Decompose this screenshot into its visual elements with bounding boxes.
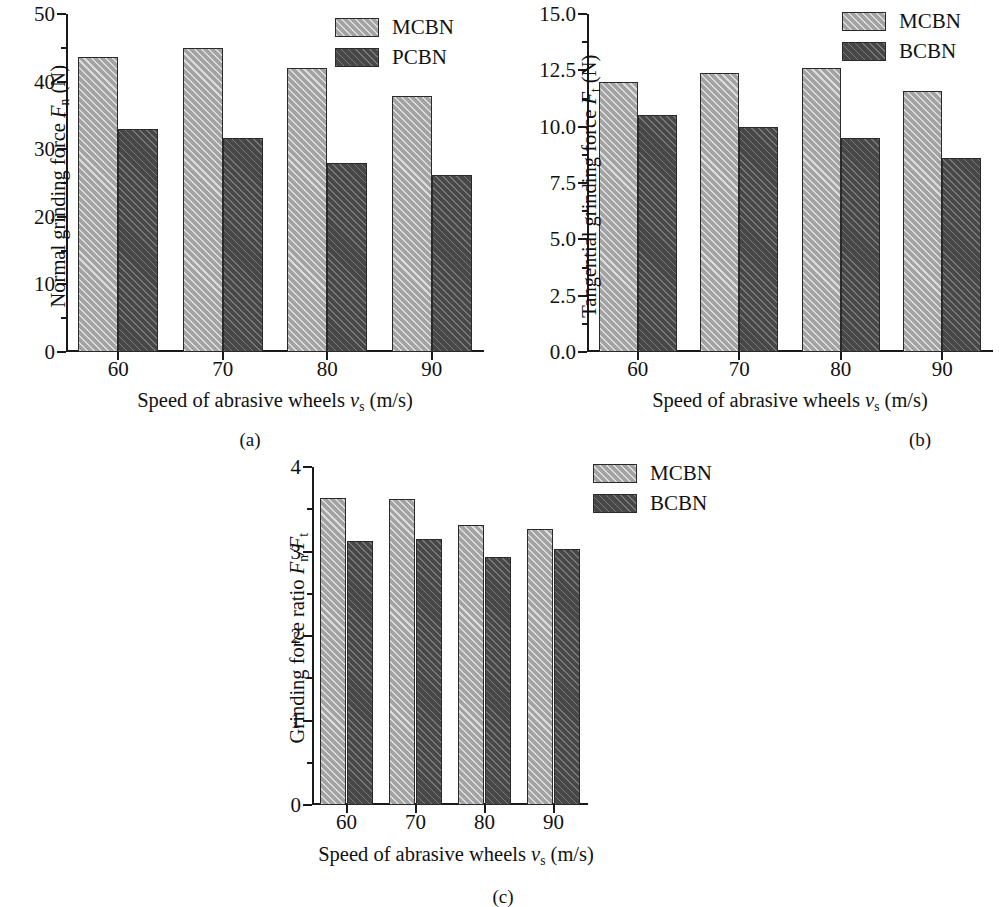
x-tick-label-b-3: 90 xyxy=(932,359,953,380)
legend-item-bcbn-b: BCBN xyxy=(842,38,961,64)
legend-swatch-bcbn-b xyxy=(842,42,886,61)
bar-b-bcbn-90 xyxy=(942,158,981,352)
plot-area-c: 0123460708090 xyxy=(312,467,588,805)
x-title-prefix-c: Speed of abrasive wheels xyxy=(318,843,531,865)
y-tick-c-4 xyxy=(303,466,312,468)
x-title-symbol-b: v xyxy=(865,389,874,411)
y-minor-tick-c-0 xyxy=(307,762,312,764)
legend-item-mcbn-c: MCBN xyxy=(593,460,712,486)
bar-a-mcbn-80 xyxy=(287,68,327,352)
x-title-subscript-c: s xyxy=(540,853,545,868)
y-tick-label-b-3: 7.5 xyxy=(550,173,576,194)
legend-swatch-bcbn-c xyxy=(593,494,637,513)
x-tick-label-a-2: 80 xyxy=(317,359,338,380)
bar-b-mcbn-60 xyxy=(599,82,638,352)
bar-c-bcbn-70 xyxy=(416,539,443,805)
bar-a-mcbn-70 xyxy=(183,48,223,352)
y-title-subscript2-c: t xyxy=(296,533,311,537)
y-minor-tick-c-3 xyxy=(307,508,312,510)
bar-b-mcbn-90 xyxy=(903,91,942,352)
x-tick-label-a-0: 60 xyxy=(108,359,129,380)
bar-a-pcbn-90 xyxy=(432,175,472,352)
x-title-subscript-b: s xyxy=(874,399,879,414)
x-tick-label-b-2: 80 xyxy=(830,359,851,380)
y-tick-label-b-1: 2.5 xyxy=(550,285,576,306)
legend-swatch-mcbn-b xyxy=(842,12,886,31)
legend-label-pcbn-a: PCBN xyxy=(392,47,447,68)
bar-a-mcbn-60 xyxy=(78,57,118,352)
y-tick-label-c-0: 0 xyxy=(291,795,302,816)
y-title-prefix-b: Tangential grinding force xyxy=(578,105,600,318)
panel-caption-a: (a) xyxy=(239,430,260,449)
x-title-symbol-a: v xyxy=(350,389,359,411)
y-tick-label-a-5: 50 xyxy=(34,4,55,25)
bar-c-mcbn-80 xyxy=(458,525,485,805)
x-title-prefix-a: Speed of abrasive wheels xyxy=(137,389,350,411)
y-axis-title-a: Normal grinding force Fn (N) xyxy=(48,36,69,336)
panel-a: 0102030405060708090 Normal grinding forc… xyxy=(0,0,500,450)
y-tick-label-b-6: 15.0 xyxy=(539,4,576,25)
y-tick-label-b-4: 10.0 xyxy=(539,116,576,137)
x-axis-title-a: Speed of abrasive wheels vs (m/s) xyxy=(137,390,413,411)
legend-item-mcbn-b: MCBN xyxy=(842,8,961,34)
legend-b: MCBN BCBN xyxy=(842,8,961,68)
bar-c-bcbn-90 xyxy=(554,549,581,805)
x-tick-label-c-2: 80 xyxy=(474,812,495,833)
legend-item-bcbn-c: BCBN xyxy=(593,490,712,516)
x-title-suffix-c: (m/s) xyxy=(545,843,593,865)
legend-c: MCBN BCBN xyxy=(593,460,712,520)
y-title-symbol-b: F xyxy=(578,92,600,105)
x-title-symbol-c: v xyxy=(531,843,540,865)
bar-b-bcbn-70 xyxy=(739,127,778,352)
y-minor-tick-c-1 xyxy=(307,677,312,679)
bar-b-mcbn-70 xyxy=(700,73,739,352)
y-title-mid-c: /F xyxy=(286,537,308,555)
panel-caption-b: (b) xyxy=(909,430,931,449)
y-tick-label-b-0: 0.0 xyxy=(550,342,576,363)
bar-a-pcbn-80 xyxy=(327,163,367,352)
y-title-prefix-c: Grinding force ratio xyxy=(286,574,308,743)
legend-label-bcbn-c: BCBN xyxy=(650,493,707,514)
y-title-subscript-a: n xyxy=(57,99,72,106)
y-axis-title-b: Tangential grinding force Ft (N) xyxy=(579,26,600,346)
bar-c-bcbn-60 xyxy=(347,541,374,805)
x-title-suffix-b: (m/s) xyxy=(879,389,927,411)
y-minor-tick-c-2 xyxy=(307,593,312,595)
x-title-prefix-b: Speed of abrasive wheels xyxy=(652,389,865,411)
legend-label-mcbn-b: MCBN xyxy=(899,11,961,32)
bar-c-bcbn-80 xyxy=(485,557,512,805)
y-tick-label-a-0: 0 xyxy=(45,342,56,363)
y-tick-c-0 xyxy=(303,804,312,806)
bar-a-mcbn-90 xyxy=(392,96,432,352)
panel-c: 0123460708090 Grinding force ratio Fn/Ft… xyxy=(250,450,755,907)
y-title-subscript-c: n xyxy=(296,555,311,562)
x-tick-label-c-3: 90 xyxy=(543,812,564,833)
bar-a-pcbn-70 xyxy=(223,138,263,352)
y-tick-b-6 xyxy=(578,13,587,15)
x-tick-label-c-1: 70 xyxy=(405,812,426,833)
panel-caption-c: (c) xyxy=(492,887,513,906)
x-tick-label-c-0: 60 xyxy=(336,812,357,833)
legend-swatch-mcbn-a xyxy=(335,18,379,37)
y-tick-label-b-5: 12.5 xyxy=(539,60,576,81)
y-title-prefix-a: Normal grinding force xyxy=(47,118,69,308)
x-tick-label-a-1: 70 xyxy=(212,359,233,380)
legend-item-pcbn-a: PCBN xyxy=(335,44,454,70)
bar-c-mcbn-60 xyxy=(320,498,347,805)
x-tick-label-b-0: 60 xyxy=(627,359,648,380)
bar-a-pcbn-60 xyxy=(118,129,158,352)
x-title-suffix-a: (m/s) xyxy=(364,389,412,411)
x-axis-title-b: Speed of abrasive wheels vs (m/s) xyxy=(652,390,928,411)
legend-label-mcbn-c: MCBN xyxy=(650,463,712,484)
legend-item-mcbn-a: MCBN xyxy=(335,14,454,40)
y-title-suffix-a: (N) xyxy=(47,65,69,99)
x-axis-title-c: Speed of abrasive wheels vs (m/s) xyxy=(318,844,594,865)
y-axis-c xyxy=(312,467,314,805)
x-title-subscript-a: s xyxy=(359,399,364,414)
y-tick-label-c-4: 4 xyxy=(291,457,302,478)
bar-c-mcbn-70 xyxy=(389,499,416,805)
bar-b-bcbn-80 xyxy=(841,138,880,352)
panel-b: 0.02.55.07.510.012.515.060708090 Tangent… xyxy=(505,0,1005,450)
bar-b-bcbn-60 xyxy=(638,115,677,352)
y-title-symbol-a: F xyxy=(47,105,69,118)
